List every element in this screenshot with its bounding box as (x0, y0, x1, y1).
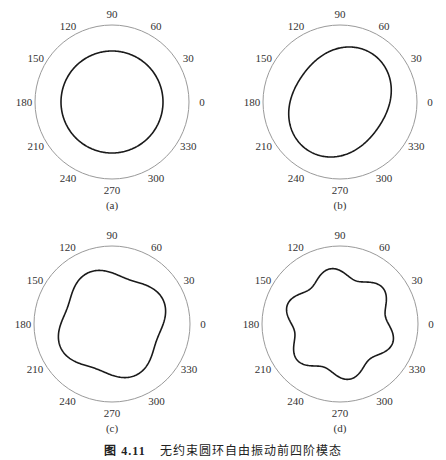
angle-tick-label: 0 (428, 318, 434, 330)
polar-panel-c: 0306090120150180210240270300330(c) (15, 229, 207, 435)
figure-number: 图 4.11 (104, 444, 145, 458)
angle-tick-label: 150 (255, 274, 272, 286)
angle-tick-label: 0 (199, 96, 205, 108)
panel-label: (a) (106, 199, 119, 212)
angle-tick-label: 90 (107, 229, 119, 241)
angle-tick-label: 150 (28, 52, 45, 64)
angle-tick-label: 180 (243, 318, 260, 330)
angle-tick-label: 330 (181, 363, 198, 375)
angle-tick-label: 210 (255, 363, 272, 375)
angle-tick-label: 330 (408, 140, 425, 152)
angle-tick-label: 120 (59, 241, 76, 253)
angle-tick-label: 210 (256, 140, 273, 152)
angle-tick-label: 60 (151, 241, 163, 253)
angle-tick-label: 330 (409, 363, 426, 375)
polar-panel-a: 0306090120150180210240270300330(a) (16, 8, 206, 212)
angle-tick-label: 300 (148, 172, 165, 184)
angle-tick-label: 90 (335, 8, 347, 20)
angle-tick-label: 0 (200, 318, 206, 330)
angle-tick-label: 270 (332, 407, 349, 419)
mode-shape-curve (289, 47, 392, 157)
outer-ring (34, 246, 190, 402)
angle-tick-label: 30 (183, 52, 195, 64)
panel-label: (d) (334, 422, 347, 435)
angle-tick-label: 270 (104, 407, 121, 419)
angle-tick-label: 180 (16, 96, 33, 108)
angle-tick-label: 90 (107, 8, 119, 20)
panel-label: (c) (106, 422, 119, 435)
polar-panel-b: 0306090120150180210240270300330(b) (244, 8, 434, 212)
angle-tick-label: 0 (427, 96, 433, 108)
mode-shape-curve (61, 51, 163, 153)
angle-tick-label: 150 (27, 274, 44, 286)
angle-tick-label: 120 (288, 20, 305, 32)
angle-tick-label: 240 (60, 172, 77, 184)
figure-title: 无约束圆环自由振动前四阶模态 (160, 444, 342, 458)
angle-tick-label: 60 (379, 241, 391, 253)
angle-tick-label: 150 (256, 52, 273, 64)
angle-tick-label: 300 (148, 395, 165, 407)
angle-tick-label: 120 (287, 241, 304, 253)
angle-tick-label: 180 (244, 96, 261, 108)
figure-canvas: 0306090120150180210240270300330(a)030609… (0, 0, 446, 460)
angle-tick-label: 240 (288, 172, 305, 184)
angle-tick-label: 60 (379, 20, 391, 32)
outer-ring (35, 25, 189, 179)
angle-tick-label: 90 (335, 229, 347, 241)
angle-tick-label: 30 (411, 52, 423, 64)
angle-tick-label: 210 (28, 140, 45, 152)
polar-panel-d: 0306090120150180210240270300330(d) (243, 229, 435, 435)
angle-tick-label: 300 (376, 172, 393, 184)
angle-tick-label: 270 (104, 184, 121, 196)
outer-ring (262, 246, 418, 402)
panel-label: (b) (334, 199, 347, 212)
angle-tick-label: 60 (151, 20, 163, 32)
angle-tick-label: 30 (184, 274, 196, 286)
mode-shape-curve (58, 270, 165, 377)
angle-tick-label: 180 (15, 318, 32, 330)
angle-tick-label: 210 (27, 363, 44, 375)
angle-tick-label: 120 (60, 20, 77, 32)
angle-tick-label: 300 (376, 395, 393, 407)
mode-shape-curve (287, 269, 394, 380)
angle-tick-label: 30 (412, 274, 424, 286)
angle-tick-label: 270 (332, 184, 349, 196)
angle-tick-label: 330 (180, 140, 197, 152)
angle-tick-label: 240 (287, 395, 304, 407)
figure-caption: 图 4.11无约束圆环自由振动前四阶模态 (0, 441, 446, 459)
angle-tick-label: 240 (59, 395, 76, 407)
